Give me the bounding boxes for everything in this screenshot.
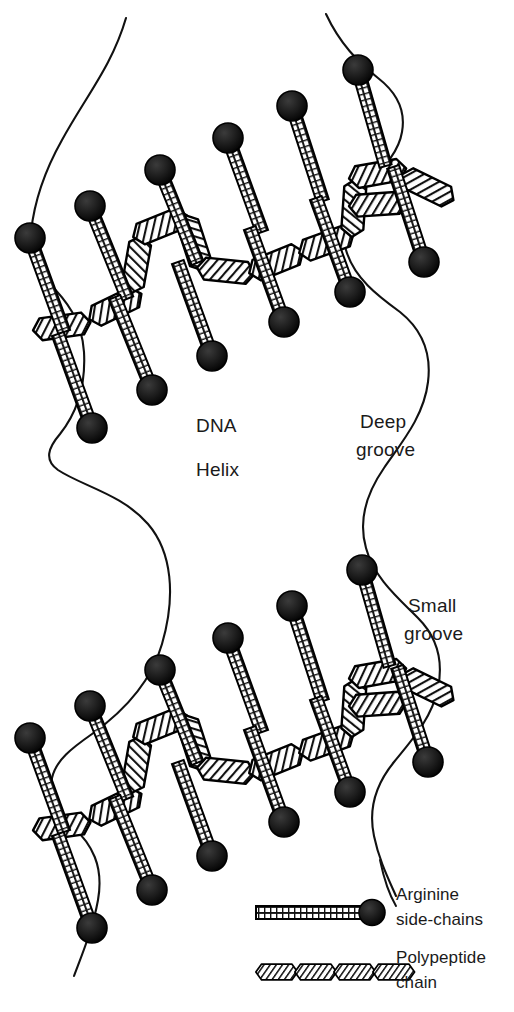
arginine-head bbox=[347, 555, 377, 585]
arginine-head bbox=[145, 155, 175, 185]
arginine-head bbox=[75, 191, 105, 221]
figure-canvas: DNA Helix Deep groove Small groove Argin… bbox=[0, 0, 514, 1012]
arginine-head bbox=[137, 375, 167, 405]
dna-helix-label-line2: Helix bbox=[196, 459, 240, 480]
arginine-head bbox=[213, 123, 243, 153]
arginine-head bbox=[197, 341, 227, 371]
deep-groove-label-line1: Deep bbox=[360, 411, 406, 432]
background bbox=[0, 0, 514, 1012]
arginine-head bbox=[277, 91, 307, 121]
backbone-segment bbox=[196, 757, 256, 785]
arginine-head bbox=[335, 777, 365, 807]
legend-polypeptide-label-line1: Polypeptide bbox=[396, 948, 486, 967]
dna-arginine-diagram: DNA Helix Deep groove Small groove Argin… bbox=[0, 0, 514, 1012]
arginine-head bbox=[269, 807, 299, 837]
arginine-head bbox=[343, 55, 373, 85]
arginine-head bbox=[75, 691, 105, 721]
arginine-head bbox=[197, 841, 227, 871]
arginine-head bbox=[335, 277, 365, 307]
dna-helix-label-line1: DNA bbox=[196, 415, 237, 436]
small-groove-label-line1: Small bbox=[408, 595, 457, 616]
backbone-segment bbox=[196, 257, 256, 285]
legend-polypeptide-label-line2: chain bbox=[396, 973, 437, 992]
arginine-head bbox=[15, 723, 45, 753]
arginine-head bbox=[413, 747, 443, 777]
deep-groove-label-line2: groove bbox=[356, 439, 415, 460]
arginine-head bbox=[409, 247, 439, 277]
arginine-head bbox=[213, 623, 243, 653]
arginine-head bbox=[137, 875, 167, 905]
small-groove-label-line2: groove bbox=[404, 623, 463, 644]
arginine-head bbox=[15, 223, 45, 253]
legend-arginine-label-line1: Arginine bbox=[396, 885, 459, 904]
arginine-head bbox=[145, 655, 175, 685]
arginine-head bbox=[77, 413, 107, 443]
arginine-head bbox=[269, 307, 299, 337]
arginine-head bbox=[277, 591, 307, 621]
legend-arginine-label-line2: side-chains bbox=[396, 910, 483, 929]
arginine-head bbox=[77, 913, 107, 943]
